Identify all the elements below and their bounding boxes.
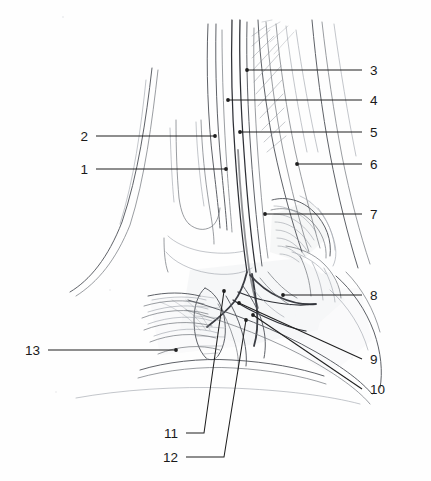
label-number-9: 9 xyxy=(370,352,378,367)
leader-dot-4 xyxy=(226,98,230,102)
label-number-5: 5 xyxy=(370,125,378,140)
label-number-8: 8 xyxy=(370,288,378,303)
label-number-10: 10 xyxy=(370,382,385,397)
label-number-13: 13 xyxy=(25,343,40,358)
leader-dot-11 xyxy=(222,289,226,293)
leader-dot-6 xyxy=(295,162,299,166)
anatomical-figure: 12345678910111213 xyxy=(0,0,431,481)
leader-dot-9 xyxy=(237,301,241,305)
label-number-4: 4 xyxy=(370,93,378,108)
label-number-2: 2 xyxy=(80,129,88,144)
label-number-11: 11 xyxy=(164,426,178,441)
leader-dot-10 xyxy=(251,313,255,317)
leader-dot-3 xyxy=(245,68,249,72)
label-number-7: 7 xyxy=(370,207,378,222)
illustration-canvas: 12345678910111213 xyxy=(0,0,431,481)
leader-dot-12 xyxy=(244,318,248,322)
label-number-3: 3 xyxy=(370,63,378,78)
label-number-1: 1 xyxy=(80,162,88,177)
leader-dot-5 xyxy=(238,130,242,134)
leader-dot-8 xyxy=(281,293,285,297)
label-number-12: 12 xyxy=(163,450,178,465)
leader-dot-7 xyxy=(263,212,267,216)
leader-dot-1 xyxy=(224,167,228,171)
leader-dot-2 xyxy=(213,134,217,138)
leader-dot-13 xyxy=(174,348,178,352)
label-number-6: 6 xyxy=(370,157,378,172)
